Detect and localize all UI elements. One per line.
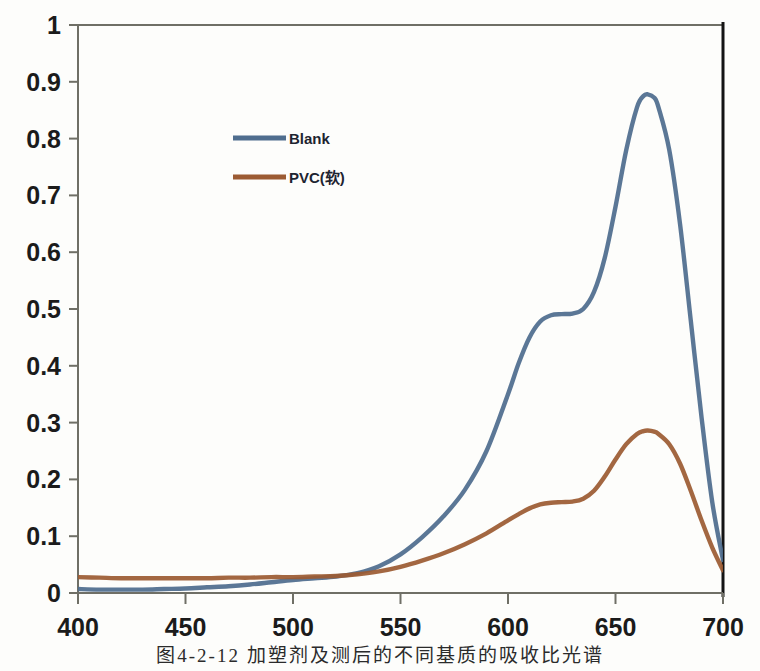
legend-label-1: PVC(软) [289, 169, 345, 186]
y-axis-tick-label: 0.8 [26, 125, 61, 153]
y-axis-tick-label: 0.5 [26, 295, 61, 323]
figure-container: 00.10.20.30.40.50.60.70.80.9140045050055… [0, 0, 760, 671]
chart-legend: BlankPVC(软) [233, 130, 345, 186]
line-chart: 00.10.20.30.40.50.60.70.80.9140045050055… [0, 0, 760, 671]
x-axis-tick-label: 650 [595, 613, 637, 641]
series-line-blank [78, 94, 723, 590]
y-axis-tick-label: 0.1 [26, 522, 61, 550]
y-axis-tick-label: 0.6 [26, 238, 61, 266]
x-axis-tick-label: 700 [702, 613, 744, 641]
figure-caption: 图4-2-12 加塑剂及测后的不同基质的吸收比光谱 [0, 640, 760, 667]
series-group [78, 94, 723, 590]
x-axis-tick-label: 500 [272, 613, 314, 641]
y-axis-tick-label: 0.2 [26, 465, 61, 493]
x-axis-tick-label: 550 [380, 613, 422, 641]
y-axis-tick-label: 0.4 [26, 352, 61, 380]
legend-label-0: Blank [289, 130, 331, 147]
x-axis-tick-label: 600 [487, 613, 529, 641]
y-axis-tick-label: 0.3 [26, 409, 61, 437]
plot-frame-top-left [78, 25, 723, 593]
x-axis-tick-label: 400 [57, 613, 99, 641]
y-axis-tick-label: 0.7 [26, 181, 61, 209]
y-axis-tick-label: 1 [47, 11, 61, 39]
y-axis-tick-label: 0 [47, 579, 61, 607]
x-axis-tick-label: 450 [165, 613, 207, 641]
y-axis-tick-label: 0.9 [26, 68, 61, 96]
